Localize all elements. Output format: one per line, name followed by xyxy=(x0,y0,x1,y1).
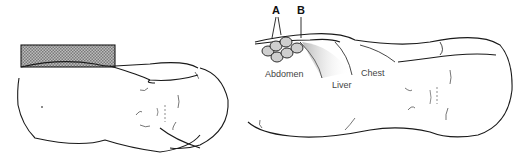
left-infant-illustration xyxy=(18,45,228,152)
label-chest: Chest xyxy=(361,68,385,78)
label-liver: Liver xyxy=(332,80,352,90)
label-b: B xyxy=(297,4,305,16)
label-a: A xyxy=(272,4,280,16)
figure-canvas xyxy=(0,0,513,158)
label-abdomen: Abdomen xyxy=(265,69,304,79)
